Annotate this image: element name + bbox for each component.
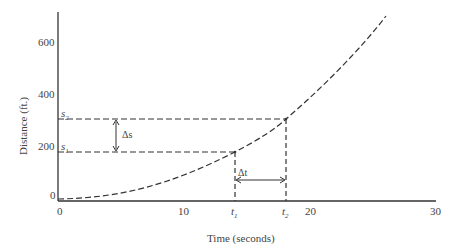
x-axis-title: Time (seconds) (207, 233, 275, 244)
y-axis-title: Distance (ft.) (17, 81, 29, 171)
delta-t-label: Δt (238, 168, 247, 178)
x-tick-0: 0 (57, 206, 63, 217)
x-tick-20: 20 (305, 206, 316, 217)
t2-label: t2 (282, 206, 289, 220)
t1-label: t1 (231, 206, 238, 220)
y-tick-600: 600 (38, 37, 55, 48)
y-tick-400: 400 (38, 89, 55, 100)
distance-curve (58, 16, 386, 199)
chart-canvas (0, 0, 460, 249)
x-tick-10: 10 (178, 206, 189, 217)
point-t1-s1 (234, 151, 237, 154)
y-tick-200: 200 (38, 141, 55, 152)
point-t2-s2 (285, 118, 288, 121)
delta-s-label: Δs (122, 130, 132, 140)
y-tick-0: 0 (50, 190, 56, 201)
s1-label: s1 (61, 141, 69, 155)
delta-s-arrow (113, 120, 119, 151)
s2-label: s2 (61, 108, 69, 122)
x-tick-30: 30 (430, 206, 441, 217)
